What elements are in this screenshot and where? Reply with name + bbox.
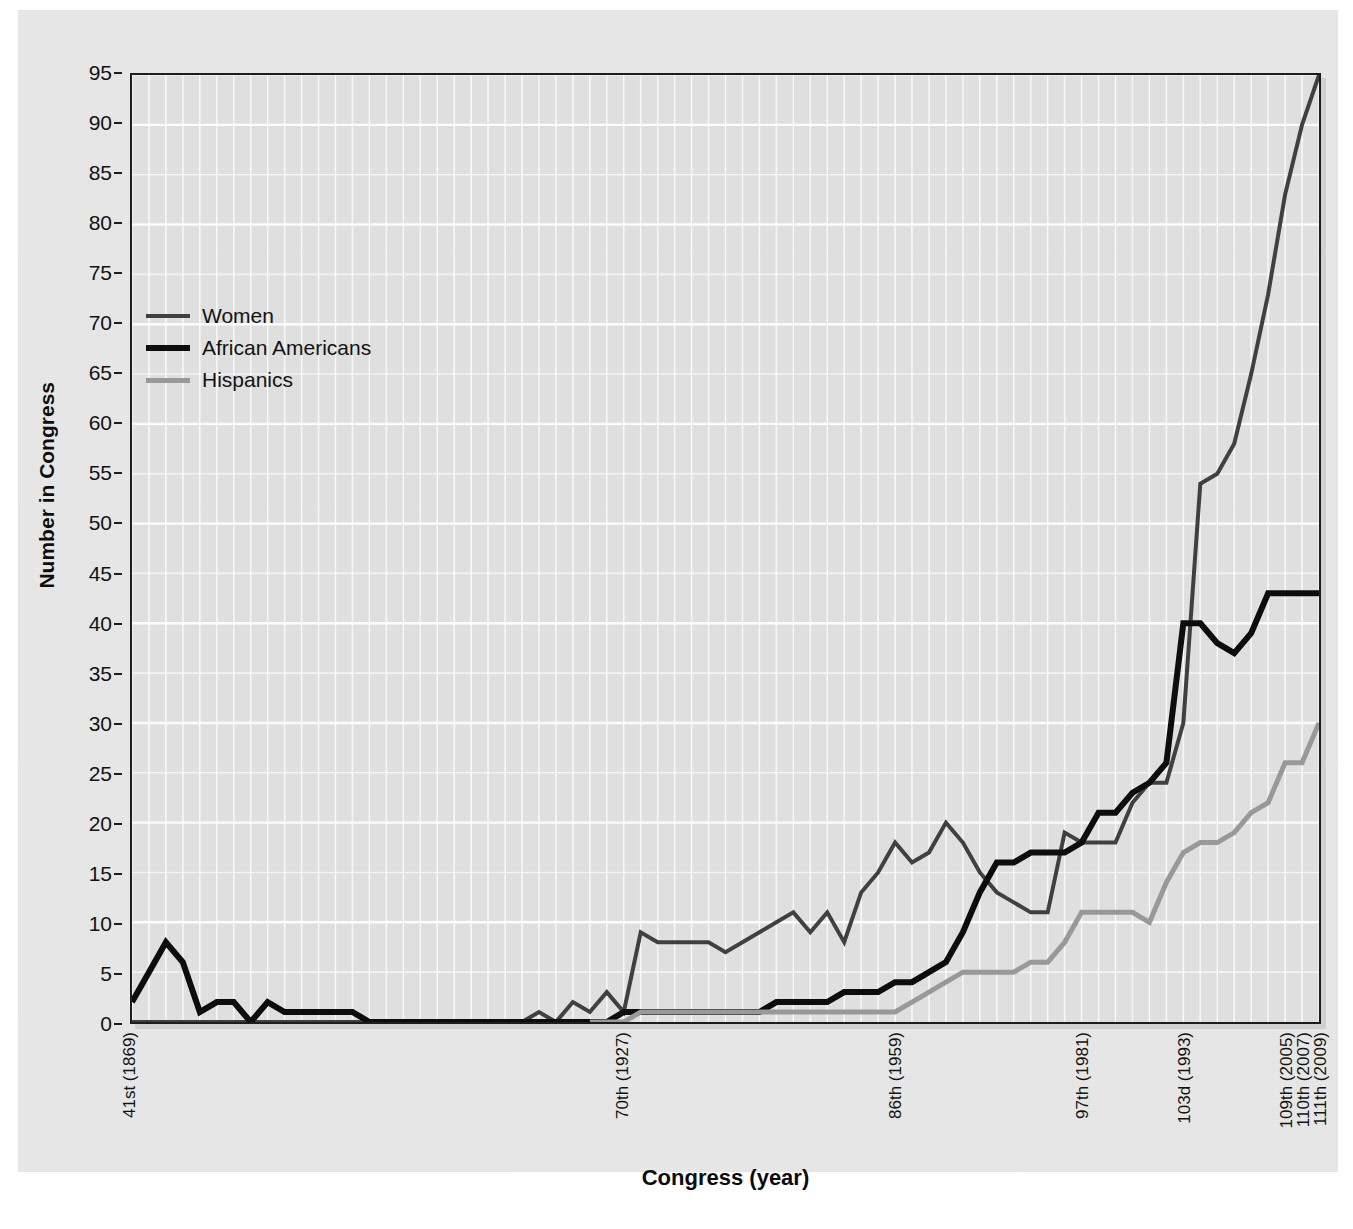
y-axis-tick: 15 — [89, 862, 112, 886]
y-axis-tick-mark — [114, 222, 122, 224]
series-line-1 — [132, 593, 1319, 1022]
x-axis-tick: 109th (2005) — [1278, 1032, 1295, 1162]
y-axis-tick: 70 — [89, 311, 112, 335]
y-axis-tick: 55 — [89, 461, 112, 485]
y-axis-tick: 0 — [100, 1012, 112, 1036]
x-axis-tick: 86th (1959) — [887, 1032, 904, 1162]
y-axis-tick-mark — [114, 723, 122, 725]
y-axis-tick-mark — [114, 873, 122, 875]
y-axis-tick: 10 — [89, 912, 112, 936]
y-axis-tick: 45 — [89, 562, 112, 586]
legend-item: Hispanics — [146, 364, 466, 396]
x-axis-tick: 111th (2009) — [1312, 1032, 1329, 1162]
y-axis-tick-mark — [114, 522, 122, 524]
y-axis-tick-labels: 05101520253035404550556065707580859095 — [58, 73, 122, 1024]
y-axis-tick-mark — [114, 72, 122, 74]
y-axis-tick: 30 — [89, 712, 112, 736]
plot-area — [130, 73, 1321, 1024]
x-axis-tick-label: 103d (1993) — [1176, 1032, 1193, 1124]
y-axis-tick: 85 — [89, 161, 112, 185]
x-axis-tick-label: 111th (2009) — [1312, 1032, 1329, 1126]
figure-panel: Number in Congress 051015202530354045505… — [18, 10, 1338, 1172]
x-axis-tick: 103d (1993) — [1176, 1032, 1193, 1162]
y-axis-tick: 5 — [100, 962, 112, 986]
x-axis-tick-label: 70th (1927) — [614, 1032, 631, 1119]
y-axis-tick-mark — [114, 272, 122, 274]
y-axis-tick-mark — [114, 122, 122, 124]
y-axis-tick: 65 — [89, 361, 112, 385]
legend-item: Women — [146, 300, 466, 332]
series-line-0 — [132, 75, 1319, 1022]
legend-label: Hispanics — [202, 368, 293, 392]
y-axis-tick: 80 — [89, 211, 112, 235]
x-axis-tick-label: 109th (2005) — [1278, 1032, 1295, 1128]
y-axis-tick-mark — [114, 773, 122, 775]
y-axis-tick-mark — [114, 623, 122, 625]
legend-label: Women — [202, 304, 274, 328]
y-axis-tick-mark — [114, 923, 122, 925]
series-lines — [132, 75, 1319, 1022]
y-axis-tick: 75 — [89, 261, 112, 285]
series-line-2 — [590, 723, 1319, 1022]
x-axis-title: Congress (year) — [130, 1165, 1321, 1191]
legend-item: African Americans — [146, 332, 466, 364]
y-axis-tick: 20 — [89, 812, 112, 836]
x-axis-tick: 41st (1869) — [121, 1032, 138, 1162]
y-axis-tick-mark — [114, 973, 122, 975]
legend-swatch — [146, 345, 190, 351]
legend-swatch — [146, 314, 190, 318]
y-axis-tick: 60 — [89, 411, 112, 435]
y-axis-tick-mark — [114, 573, 122, 575]
x-axis-tick: 110th (2007) — [1295, 1032, 1312, 1162]
y-axis-title-label: Number in Congress — [35, 382, 59, 589]
y-axis-tick: 50 — [89, 511, 112, 535]
x-axis-tick-label: 110th (2007) — [1295, 1032, 1312, 1127]
y-axis-tick: 25 — [89, 762, 112, 786]
x-axis-tick-labels: 41st (1869)70th (1927)86th (1959)97th (1… — [130, 1032, 1321, 1162]
x-axis-tick: 70th (1927) — [614, 1032, 631, 1162]
x-axis-tick-label: 41st (1869) — [121, 1032, 138, 1118]
x-axis-tick-label: 97th (1981) — [1074, 1032, 1091, 1119]
legend-label: African Americans — [202, 336, 371, 360]
y-axis-tick-mark — [114, 472, 122, 474]
y-axis-tick: 35 — [89, 662, 112, 686]
chart-legend: WomenAfrican AmericansHispanics — [146, 300, 466, 396]
y-axis-tick-mark — [114, 1023, 122, 1025]
y-axis-tick-mark — [114, 372, 122, 374]
y-axis-tick: 90 — [89, 111, 112, 135]
y-axis-tick-mark — [114, 673, 122, 675]
x-axis-tick-label: 86th (1959) — [887, 1032, 904, 1119]
x-axis-tick: 97th (1981) — [1074, 1032, 1091, 1162]
y-axis-tick-mark — [114, 422, 122, 424]
y-axis-tick-mark — [114, 172, 122, 174]
y-axis-tick-mark — [114, 823, 122, 825]
y-axis-tick: 40 — [89, 612, 112, 636]
legend-swatch — [146, 378, 190, 383]
y-axis-tick-mark — [114, 322, 122, 324]
y-axis-tick: 95 — [89, 61, 112, 85]
chart-page: Number in Congress 051015202530354045505… — [0, 0, 1353, 1229]
